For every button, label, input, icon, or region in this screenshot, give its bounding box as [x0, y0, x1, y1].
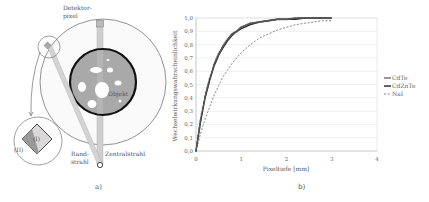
label-central-ray: Zentralstrahl — [105, 150, 145, 157]
series-marker — [201, 114, 203, 116]
y-tick: 0,5 — [184, 82, 193, 88]
series-marker — [295, 17, 297, 19]
series-marker — [249, 22, 251, 24]
y-axis-label: Wechselwirkungswahrscheinlichkeit — [171, 30, 179, 141]
panel-b-chart: 0,00,10,20,30,40,50,60,70,80,91,0 01234 … — [171, 15, 416, 191]
series-marker — [299, 17, 301, 19]
y-tick: 0,0 — [184, 148, 193, 154]
series-marker — [265, 20, 267, 22]
central-ray-over-object — [97, 50, 103, 114]
connector-line — [31, 52, 40, 115]
series-marker — [313, 17, 315, 19]
series-marker — [283, 18, 285, 20]
detector-pixel-central — [97, 20, 104, 27]
series-marker — [213, 64, 215, 66]
chart-legend: CdTeCdZnTeNaI — [384, 74, 416, 97]
label-region-1: (I) — [33, 135, 40, 142]
y-tick: 0,4 — [184, 95, 193, 101]
series-marker — [286, 18, 288, 20]
caption-a: a) — [95, 183, 102, 191]
series-marker — [217, 56, 219, 58]
caption-b: b) — [298, 183, 305, 191]
series-marker — [218, 53, 220, 55]
series-marker — [195, 150, 197, 152]
series-line-nai — [196, 21, 332, 151]
series-marker — [326, 17, 328, 19]
x-tick: 3 — [330, 156, 334, 162]
series-marker — [320, 17, 322, 19]
label-object: Objekt — [108, 90, 129, 98]
series-marker — [277, 18, 279, 20]
x-axis-label: Pixeltiefe [mm] — [263, 165, 309, 172]
series-marker — [205, 91, 207, 93]
series-marker — [258, 21, 260, 23]
series-marker — [206, 87, 208, 89]
x-ray-source — [97, 162, 102, 167]
series-marker — [245, 24, 247, 26]
series-marker — [268, 20, 270, 22]
series-marker — [324, 17, 326, 19]
series-marker — [221, 47, 223, 49]
series-marker — [279, 18, 281, 20]
series-marker — [202, 108, 204, 110]
series-marker — [247, 23, 249, 25]
series-marker — [304, 17, 306, 19]
y-tick: 0,6 — [184, 68, 193, 74]
series-marker — [197, 135, 199, 137]
y-tick: 0,2 — [184, 121, 193, 127]
y-tick: 0,7 — [184, 55, 193, 61]
series-marker — [211, 71, 213, 73]
series-marker — [274, 19, 276, 21]
series-marker — [212, 67, 214, 69]
series-marker — [226, 40, 228, 42]
series-marker — [301, 17, 303, 19]
series-marker — [214, 61, 216, 63]
x-tick-labels: 01234 — [194, 156, 379, 162]
series-marker — [263, 20, 265, 22]
y-tick: 0,3 — [184, 108, 193, 114]
series-marker — [329, 17, 331, 19]
y-tick: 0,1 — [184, 135, 193, 141]
series-marker — [200, 120, 202, 122]
series-marker — [220, 49, 222, 51]
series-marker — [292, 17, 294, 19]
x-tick: 4 — [375, 156, 379, 162]
series-marker — [310, 17, 312, 19]
series-marker — [306, 17, 308, 19]
y-tick: 0,8 — [184, 42, 193, 48]
y-tick: 0,9 — [184, 28, 193, 34]
x-tick: 2 — [285, 156, 289, 162]
series-marker — [315, 17, 317, 19]
series-marker — [208, 83, 210, 85]
y-tick-labels: 0,00,10,20,30,40,50,60,70,80,91,0 — [184, 15, 193, 154]
label-region-2: (II) — [14, 146, 23, 153]
series-marker — [254, 22, 256, 24]
series-marker — [317, 17, 319, 19]
series-marker — [270, 19, 272, 21]
series-marker — [240, 26, 242, 28]
panel-a-diagram: (I) (II) Detektor- pixel Objekt Rand- st… — [14, 4, 166, 191]
series-marker — [288, 18, 290, 20]
series-marker — [222, 45, 224, 47]
series-marker — [308, 17, 310, 19]
series-marker — [243, 25, 245, 27]
series-marker — [297, 17, 299, 19]
label-edge-ray-line2: strahl — [71, 158, 89, 165]
series-marker — [252, 22, 254, 24]
label-detector-line1: Detektor- — [63, 4, 92, 11]
label-edge-ray-line1: Rand- — [71, 150, 89, 157]
series-marker — [210, 75, 212, 77]
series-marker — [204, 96, 206, 98]
series-marker — [215, 58, 217, 60]
x-tick: 1 — [240, 156, 244, 162]
series-marker — [225, 42, 227, 44]
series-marker — [281, 18, 283, 20]
figure: (I) (II) Detektor- pixel Objekt Rand- st… — [0, 0, 429, 202]
legend-label: CdZnTe — [392, 82, 416, 89]
y-tick: 1,0 — [184, 15, 193, 21]
series-marker — [290, 18, 292, 20]
series-marker — [272, 19, 274, 21]
series-marker — [209, 78, 211, 80]
series-marker — [198, 127, 200, 129]
legend-label: NaI — [392, 90, 404, 97]
